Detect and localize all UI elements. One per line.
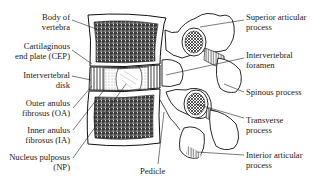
label-intervertebral-disk: Intervertebral disk xyxy=(23,70,70,90)
label-nucleus-pulposus: Nucleus pulposus (NP) xyxy=(9,152,70,172)
label-line: foramen xyxy=(246,60,293,70)
label-line: Cartilaginous xyxy=(15,41,70,51)
intervertebral-disk-drawing xyxy=(89,65,160,91)
label-interior-articular-process: Interior articular process xyxy=(246,150,303,170)
label-line: process xyxy=(246,125,283,135)
label-line: process xyxy=(246,160,303,170)
label-line: Transverse xyxy=(246,115,283,125)
label-line: Nucleus pulposus xyxy=(9,152,70,162)
label-line: process xyxy=(246,22,306,32)
label-pedicle: Pedicle xyxy=(140,166,165,176)
label-line: disk xyxy=(23,80,70,90)
label-line: Superior articular xyxy=(246,12,306,22)
label-line: Interior articular xyxy=(246,150,303,160)
label-transverse-process: Transverse process xyxy=(246,115,283,135)
label-body-of-vertebra: Body of vertebra xyxy=(42,12,70,32)
label-line: fibrosus (OA) xyxy=(22,108,70,118)
label-spinous-process: Spinous process xyxy=(246,87,302,97)
label-intervertebral-foramen: Intervertebral foramen xyxy=(246,50,293,70)
label-line: vertebra xyxy=(42,22,70,32)
label-line: Intervertebral xyxy=(23,70,70,80)
label-cartilaginous-end-plate: Cartilaginous end plate (CEP) xyxy=(15,41,70,61)
label-line: end plate (CEP) xyxy=(15,51,70,61)
label-superior-articular-process: Superior articular process xyxy=(246,12,306,32)
upper-vertebral-body xyxy=(88,14,166,67)
label-line: fibrosus (IA) xyxy=(25,135,70,145)
label-line: Inner anulus xyxy=(25,125,70,135)
label-line: Body of xyxy=(42,12,70,22)
label-line: Spinous process xyxy=(246,87,302,97)
label-line: Pedicle xyxy=(140,166,165,176)
label-line: Outer anulus xyxy=(22,98,70,108)
label-line: Intervertebral xyxy=(246,50,293,60)
label-line: (NP) xyxy=(9,162,70,172)
label-inner-anulus-fibrosus: Inner anulus fibrosus (IA) xyxy=(25,125,70,145)
label-outer-anulus-fibrosus: Outer anulus fibrosus (OA) xyxy=(22,98,70,118)
